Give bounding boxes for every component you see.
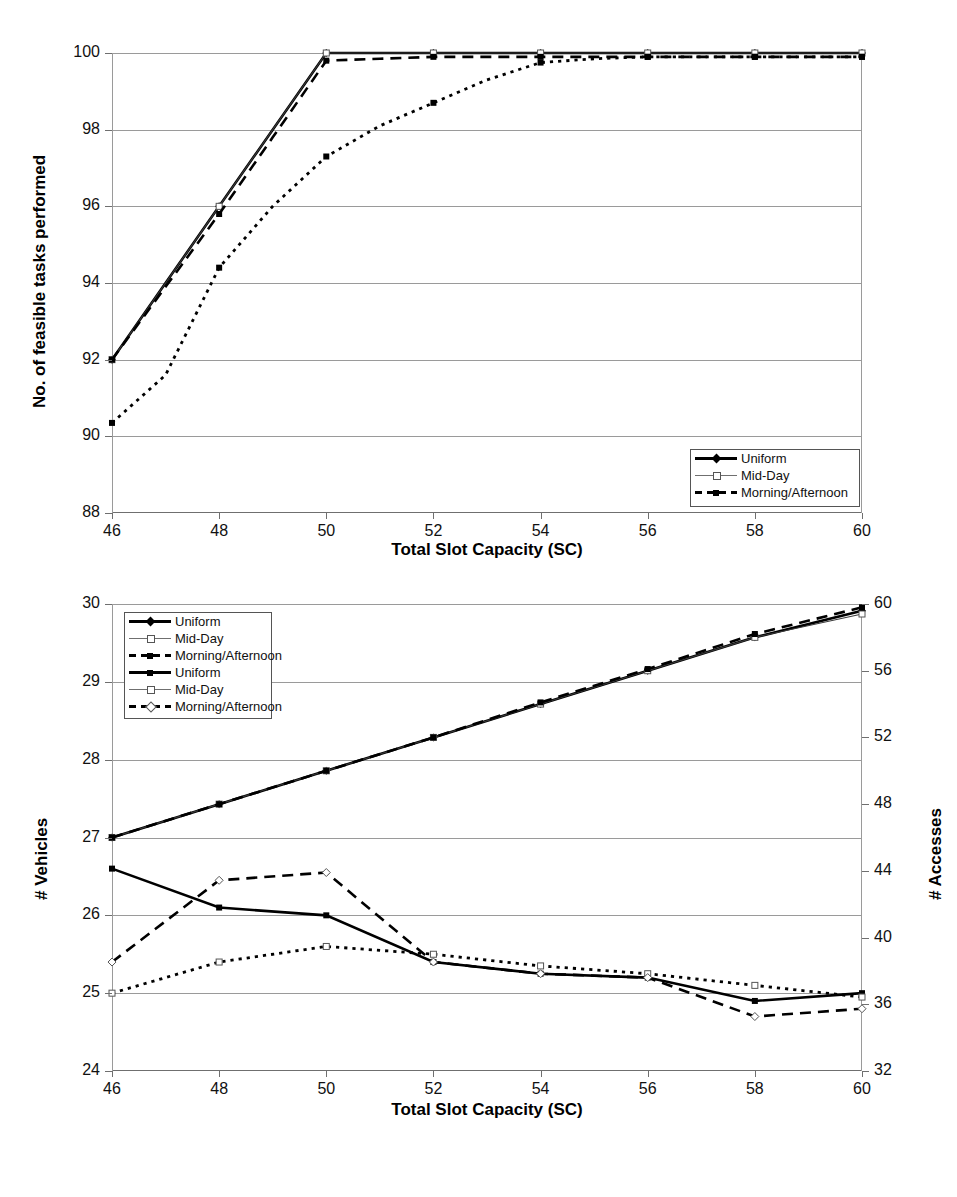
x-tick-label: 52 — [408, 1080, 458, 1098]
y-tickmark — [105, 206, 112, 207]
legend-key-icon — [129, 667, 171, 679]
series-line-4 — [112, 946, 862, 997]
y2-tickmark — [862, 1004, 869, 1005]
legend-key-icon — [129, 633, 171, 645]
x-tickmark — [541, 513, 542, 519]
y-tickmark — [105, 838, 112, 839]
y2-tickmark — [862, 804, 869, 805]
y-tick-label: 94 — [50, 273, 100, 291]
x-tick-label: 50 — [301, 1080, 351, 1098]
legend-top: UniformMid-DayMorning/Afternoon — [690, 449, 860, 507]
legend-label: Morning/Afternoon — [737, 486, 848, 499]
y-tickmark — [105, 1071, 112, 1072]
y2-tickmark — [862, 938, 869, 939]
y-tick-label: 27 — [50, 828, 100, 846]
x-axis-title-bottom: Total Slot Capacity (SC) — [112, 1100, 862, 1120]
legend-item: Uniform — [125, 613, 271, 630]
x-tick-label: 48 — [194, 522, 244, 540]
y-tickmark — [105, 283, 112, 284]
y-tickmark — [105, 53, 112, 54]
y2-tickmark — [862, 737, 869, 738]
x-tickmark — [326, 1071, 327, 1077]
legend-key-icon — [129, 684, 171, 696]
x-tick-label: 48 — [194, 1080, 244, 1098]
y-tickmark — [105, 915, 112, 916]
legend-item: Uniform — [691, 450, 859, 467]
series-line-3 — [112, 57, 862, 423]
x-tick-label: 56 — [623, 1080, 673, 1098]
series-line-3 — [112, 869, 862, 1001]
x-tickmark — [755, 513, 756, 519]
series-line-5 — [112, 873, 862, 1017]
y2-tickmark — [862, 604, 869, 605]
legend-item: Mid-Day — [125, 630, 271, 647]
legend-item: Mid-Day — [691, 467, 859, 484]
x-tick-label: 54 — [516, 1080, 566, 1098]
x-tick-label: 56 — [623, 522, 673, 540]
x-tick-label: 50 — [301, 522, 351, 540]
legend-item: Mid-Day — [125, 681, 271, 698]
legend-label: Morning/Afternoon — [171, 700, 282, 713]
plot-area-top — [112, 53, 862, 513]
figure-page: No. of feasible tasks performed Total Sl… — [0, 0, 957, 1197]
y-axis-title-bottom: # Vehicles — [32, 818, 52, 900]
series-line-2 — [112, 57, 862, 360]
legend-item: Morning/Afternoon — [691, 484, 859, 501]
x-tickmark — [862, 513, 863, 519]
y2-tick-label: 36 — [874, 994, 918, 1012]
x-tickmark — [648, 513, 649, 519]
legend-label: Mid-Day — [171, 632, 223, 645]
x-tickmark — [541, 1071, 542, 1077]
chart-feasible-tasks: No. of feasible tasks performed Total Sl… — [0, 0, 957, 570]
y-tick-label: 96 — [50, 196, 100, 214]
legend-key-icon — [129, 701, 171, 713]
y-tick-label: 100 — [50, 43, 100, 61]
x-tickmark — [755, 1071, 756, 1077]
x-tick-label: 46 — [87, 522, 137, 540]
y-tick-label: 92 — [50, 350, 100, 368]
x-tickmark — [219, 1071, 220, 1077]
y2-tick-label: 32 — [874, 1061, 918, 1079]
legend-label: Uniform — [171, 666, 221, 679]
legend-key-icon — [695, 453, 737, 465]
legend-label: Morning/Afternoon — [171, 649, 282, 662]
legend-label: Uniform — [171, 615, 221, 628]
y-tickmark — [105, 993, 112, 994]
x-tickmark — [112, 513, 113, 519]
legend-label: Mid-Day — [171, 683, 223, 696]
chart-vehicles-accesses: # Vehicles # Accesses Total Slot Capacit… — [0, 570, 957, 1197]
x-tick-label: 60 — [837, 522, 887, 540]
y-tick-label: 29 — [50, 672, 100, 690]
y-tick-label: 26 — [50, 905, 100, 923]
x-tickmark — [326, 513, 327, 519]
y2-tick-label: 44 — [874, 861, 918, 879]
y2-tick-label: 60 — [874, 594, 918, 612]
legend-key-icon — [695, 487, 737, 499]
y-tickmark — [105, 130, 112, 131]
x-tickmark — [219, 513, 220, 519]
y2-axis-title-bottom: # Accesses — [926, 808, 946, 900]
y2-tickmark — [862, 671, 869, 672]
y-tick-label: 30 — [50, 594, 100, 612]
legend-item: Uniform — [125, 664, 271, 681]
x-tickmark — [648, 1071, 649, 1077]
y-tickmark — [105, 360, 112, 361]
y-tick-label: 24 — [50, 1061, 100, 1079]
y2-tick-label: 48 — [874, 794, 918, 812]
legend-item: Morning/Afternoon — [125, 698, 271, 715]
legend-key-icon — [129, 650, 171, 662]
y-tick-label: 25 — [50, 983, 100, 1001]
y2-tickmark — [862, 871, 869, 872]
y-tick-label: 90 — [50, 426, 100, 444]
legend-key-icon — [129, 616, 171, 628]
y-tickmark — [105, 513, 112, 514]
legend-bottom: UniformMid-DayMorning/AfternoonUniformMi… — [124, 612, 272, 719]
y2-tickmark — [862, 1071, 869, 1072]
x-tick-label: 58 — [730, 522, 780, 540]
y-tickmark — [105, 682, 112, 683]
x-tick-label: 60 — [837, 1080, 887, 1098]
y-tickmark — [105, 604, 112, 605]
x-axis-title-top: Total Slot Capacity (SC) — [112, 540, 862, 560]
legend-label: Uniform — [737, 452, 787, 465]
y-axis-title-top: No. of feasible tasks performed — [30, 155, 50, 408]
